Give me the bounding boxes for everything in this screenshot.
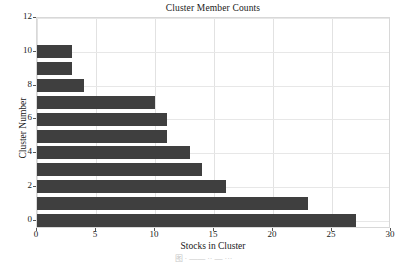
y-tick-label: 12 xyxy=(8,11,32,22)
x-tick-mark xyxy=(154,228,155,231)
y-tick-mark xyxy=(33,17,36,18)
y-tick-mark xyxy=(33,152,36,153)
x-tick-mark xyxy=(213,228,214,231)
bar-cluster-9 xyxy=(37,62,72,75)
x-tick-mark xyxy=(36,228,37,231)
x-tick-mark xyxy=(272,228,273,231)
y-tick-mark xyxy=(33,51,36,52)
bar-cluster-2 xyxy=(37,180,226,193)
x-tick-mark xyxy=(331,228,332,231)
y-axis-label: Cluster Number xyxy=(17,58,29,198)
y-tick-mark xyxy=(33,220,36,221)
bar-series xyxy=(37,18,389,227)
bar-cluster-6 xyxy=(37,113,167,126)
chart-figure: Cluster Member Counts 051015202530024681… xyxy=(0,0,407,262)
bar-cluster-4 xyxy=(37,146,190,159)
y-tick-label: 10 xyxy=(8,45,32,56)
bar-cluster-10 xyxy=(37,45,72,58)
bar-cluster-7 xyxy=(37,96,155,109)
bar-cluster-1 xyxy=(37,197,308,210)
y-tick-mark xyxy=(33,118,36,119)
plot-area xyxy=(36,17,390,228)
bar-cluster-3 xyxy=(37,163,202,176)
x-axis-label: Stocks in Cluster xyxy=(36,240,390,252)
caption-fragment: 图 · —— ·· — ··· xyxy=(0,254,407,262)
bar-cluster-8 xyxy=(37,79,84,92)
chart-title: Cluster Member Counts xyxy=(36,2,390,14)
y-tick-mark xyxy=(33,85,36,86)
y-tick-label: 0 xyxy=(8,214,32,225)
bar-cluster-0 xyxy=(37,214,356,227)
y-tick-mark xyxy=(33,186,36,187)
x-tick-mark xyxy=(95,228,96,231)
bar-cluster-5 xyxy=(37,130,167,143)
x-tick-mark xyxy=(390,228,391,231)
